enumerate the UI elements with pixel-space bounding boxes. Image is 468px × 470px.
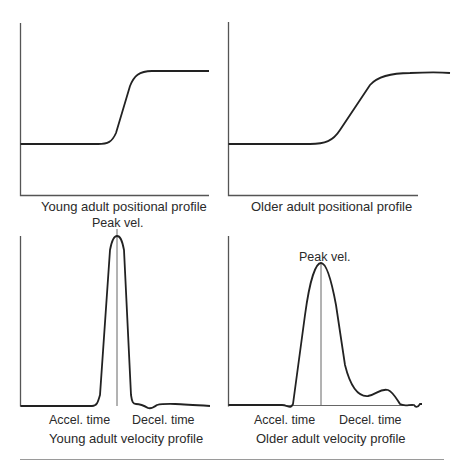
older-position-chart xyxy=(229,22,451,196)
young-position-curve xyxy=(21,71,210,144)
young-position-caption: Young adult positional profile xyxy=(41,199,207,214)
young-peak-label: Peak vel. xyxy=(92,216,143,230)
older-position-caption: Older adult positional profile xyxy=(251,199,412,214)
young-velocity-chart xyxy=(21,229,211,408)
older-peak-label: Peak vel. xyxy=(299,250,350,264)
older-velocity-curve xyxy=(229,263,423,407)
young-accel-label: Accel. time xyxy=(49,413,110,427)
young-decel-label: Decel. time xyxy=(132,413,195,427)
young-position-axes xyxy=(21,23,210,196)
older-accel-label: Accel. time xyxy=(254,413,315,427)
motion-profiles-figure xyxy=(0,0,468,470)
older-position-axes xyxy=(229,22,419,196)
young-velocity-curve xyxy=(21,236,211,408)
older-velocity-caption: Older adult velocity profile xyxy=(256,431,406,446)
older-decel-label: Decel. time xyxy=(339,413,402,427)
figure-divider xyxy=(20,459,444,460)
young-position-chart xyxy=(21,23,210,196)
older-position-curve xyxy=(229,72,451,144)
young-velocity-caption: Young adult velocity profile xyxy=(49,431,203,446)
